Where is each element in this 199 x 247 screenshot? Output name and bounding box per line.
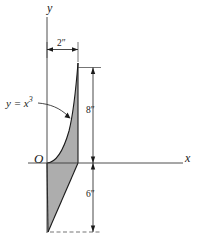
dimension-label-lower-height: 6″	[86, 190, 95, 200]
dim8-arrow-bottom	[91, 157, 95, 164]
dimension-label-width: 2″	[57, 39, 66, 49]
dim6-arrow-bottom	[91, 226, 95, 233]
diagram-svg	[0, 0, 199, 247]
curve-equation-label: y = x3	[6, 96, 33, 109]
x-axis-label: x	[185, 152, 190, 164]
curve-equation-base: y = x	[6, 97, 29, 109]
dim2-arrow-right	[72, 47, 78, 52]
dim2-arrow-left	[47, 47, 53, 52]
dim6-arrow-top	[91, 163, 95, 170]
y-axis-label: y	[47, 2, 52, 14]
origin-label: O	[34, 152, 43, 165]
dim8-arrow-top	[91, 68, 95, 75]
dimension-label-upper-height: 8″	[86, 106, 95, 116]
figure-canvas: y x O 2″ 8″ 6″ y = x3	[0, 0, 199, 247]
curve-label-leader	[38, 103, 68, 116]
curve-equation-exponent: 3	[29, 95, 33, 104]
